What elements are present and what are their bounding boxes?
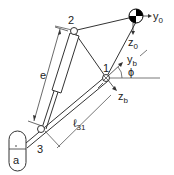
main-arm-upper <box>26 76 106 143</box>
mechanism-diagram: e 2 3 1 yb ϕ zb ℓ31 a y0 <box>0 0 174 175</box>
label-joint-3: 3 <box>37 143 43 155</box>
link-2-to-cog <box>77 17 133 30</box>
label-joint-1: 1 <box>103 62 109 74</box>
label-l31: ℓ31 <box>73 117 86 132</box>
joint-2-pivot-icon <box>71 28 78 35</box>
axis-z0-arrow-icon <box>131 31 135 35</box>
label-y0: y0 <box>153 10 164 25</box>
label-phi: ϕ <box>128 66 134 78</box>
base-block-dot <box>15 145 17 147</box>
label-z0: z0 <box>128 36 139 51</box>
dimension-l31-line <box>57 95 111 148</box>
dimension-e-line <box>34 29 60 121</box>
axis-y0-arrow-icon <box>148 14 152 18</box>
angle-phi-arc <box>118 67 122 78</box>
dimension-l31-ext-bottom <box>45 131 60 147</box>
link-2-to-1 <box>75 33 105 76</box>
label-e: e <box>40 69 46 81</box>
joint-3-pivot-icon <box>38 126 45 133</box>
cog-symbol-icon <box>129 9 143 23</box>
axis-yb-tick <box>140 50 147 56</box>
label-joint-2: 2 <box>68 14 74 26</box>
label-zb: zb <box>118 90 129 105</box>
label-a: a <box>13 154 20 166</box>
